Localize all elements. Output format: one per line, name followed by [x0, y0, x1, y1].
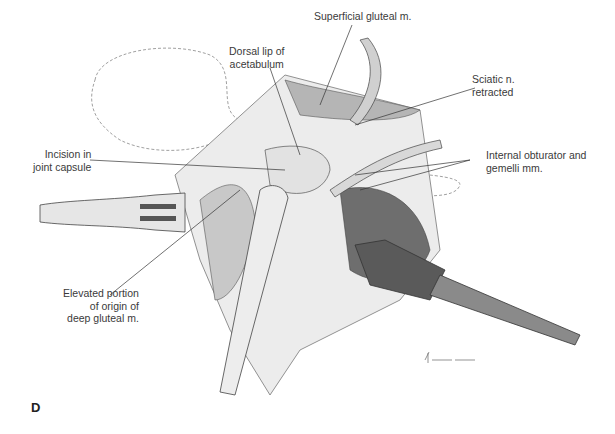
label-superficial-gluteal: Superficial gluteal m.: [314, 10, 411, 23]
label-sciatic-nerve: Sciatic n. retracted: [472, 73, 515, 98]
superficial-gluteal-muscle: [285, 80, 420, 120]
surgical-illustration: [0, 0, 615, 434]
retractor-left-fork: [40, 193, 185, 232]
label-elevated-portion: Elevated portion of origin of deep glute…: [63, 287, 139, 325]
panel-letter: D: [31, 400, 40, 415]
artist-signature: [425, 352, 475, 363]
label-incision-joint-capsule: Incision in joint capsule: [33, 148, 91, 173]
label-dorsal-lip-acetabulum: Dorsal lip of acetabulum: [229, 45, 284, 70]
pelvis-outline-dashed: [92, 48, 240, 150]
label-internal-obturator: Internal obturator and gemelli mm.: [486, 149, 586, 174]
